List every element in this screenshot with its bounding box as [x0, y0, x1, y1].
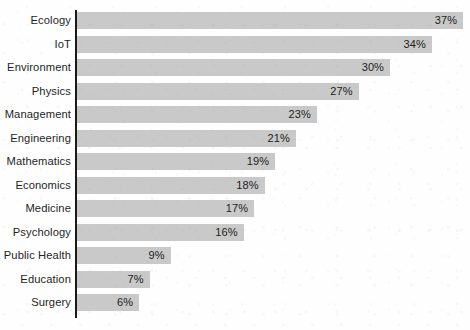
bar	[77, 130, 296, 147]
category-label: Surgery	[31, 294, 71, 311]
bar-row: Education7%	[0, 271, 470, 288]
bar	[77, 106, 317, 123]
bar-value-label: 34%	[403, 36, 425, 53]
category-label: IoT	[55, 36, 71, 53]
bar-row: IoT34%	[0, 36, 470, 53]
plot-area: Ecology37%IoT34%Environment30%Physics27%…	[0, 0, 470, 330]
bar-chart: Ecology37%IoT34%Environment30%Physics27%…	[0, 0, 470, 330]
bar	[77, 12, 464, 29]
bar-value-label: 16%	[215, 224, 237, 241]
category-label: Environment	[7, 59, 71, 76]
bar-value-label: 9%	[148, 247, 164, 264]
category-label: Ecology	[30, 12, 71, 29]
bar-value-label: 21%	[268, 130, 290, 147]
category-label: Mathematics	[6, 153, 71, 170]
category-label: Psychology	[13, 224, 71, 241]
category-label: Education	[20, 271, 71, 288]
bar-row: Economics18%	[0, 177, 470, 194]
bar-value-label: 18%	[236, 177, 258, 194]
category-label: Medicine	[25, 200, 71, 217]
bar-row: Engineering21%	[0, 130, 470, 147]
category-label: Physics	[32, 83, 71, 100]
bar-row: Management23%	[0, 106, 470, 123]
bar-row: Surgery6%	[0, 294, 470, 311]
bar-value-label: 27%	[330, 83, 352, 100]
bar	[77, 83, 359, 100]
bar-row: Public Health9%	[0, 247, 470, 264]
bar-row: Environment30%	[0, 59, 470, 76]
bar-row: Medicine17%	[0, 200, 470, 217]
bar-value-label: 17%	[226, 200, 248, 217]
bar-value-label: 23%	[289, 106, 311, 123]
bar-row: Mathematics19%	[0, 153, 470, 170]
category-label: Economics	[15, 177, 71, 194]
bar	[77, 153, 276, 170]
category-label: Engineering	[10, 130, 71, 147]
bar-value-label: 37%	[435, 12, 457, 29]
category-label: Management	[5, 106, 71, 123]
bar	[77, 36, 432, 53]
bar-row: Ecology37%	[0, 12, 470, 29]
bar-value-label: 6%	[117, 294, 133, 311]
category-label: Public Health	[4, 247, 71, 264]
bar-value-label: 30%	[362, 59, 384, 76]
bar-row: Psychology16%	[0, 224, 470, 241]
bar	[77, 59, 391, 76]
bar-row: Physics27%	[0, 83, 470, 100]
bar-value-label: 19%	[247, 153, 269, 170]
bar-value-label: 7%	[128, 271, 144, 288]
